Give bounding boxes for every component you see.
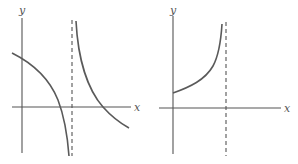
right-y-label: y bbox=[169, 4, 177, 17]
right-branch-curve bbox=[76, 21, 129, 128]
left-x-label: x bbox=[134, 101, 141, 114]
diagram-canvas: y x y x bbox=[0, 0, 298, 164]
right-graph: y x bbox=[159, 4, 291, 156]
right-x-label: x bbox=[284, 102, 291, 115]
increasing-curve bbox=[173, 24, 222, 93]
left-y-label: y bbox=[18, 4, 26, 17]
left-graph: y x bbox=[12, 4, 141, 156]
left-branch-curve bbox=[12, 53, 69, 156]
